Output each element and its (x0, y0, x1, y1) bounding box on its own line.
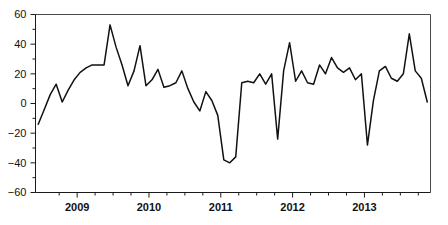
plot-frame (36, 15, 431, 193)
line-chart: 6040200−20−40−60 20092010201120122013 (0, 0, 448, 225)
y-tick-label: −20 (8, 127, 27, 139)
x-tick-label: 2009 (65, 201, 89, 213)
y-tick-label: 0 (20, 97, 26, 109)
y-tick-label: 20 (14, 68, 26, 80)
data-series-group (38, 25, 427, 163)
chart-container: 6040200−20−40−60 20092010201120122013 (0, 0, 448, 225)
y-axis-tick-labels: 6040200−20−40−60 (8, 8, 27, 198)
axis-ticks (31, 15, 419, 198)
y-tick-label: −60 (8, 186, 27, 198)
x-tick-label: 2011 (209, 201, 233, 213)
y-tick-label: 60 (14, 8, 26, 20)
x-tick-label: 2013 (352, 201, 376, 213)
y-tick-label: −40 (8, 157, 27, 169)
x-axis-tick-labels: 20092010201120122013 (65, 201, 377, 213)
x-tick-label: 2012 (280, 201, 304, 213)
x-tick-label: 2010 (137, 201, 161, 213)
y-tick-label: 40 (14, 38, 26, 50)
data-line-series-1 (38, 25, 427, 163)
